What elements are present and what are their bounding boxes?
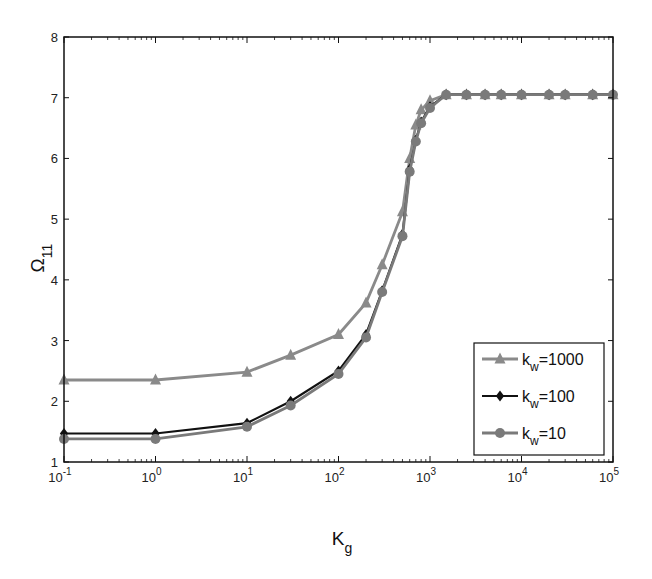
y-tick-label: 5	[51, 212, 58, 227]
circle-marker	[405, 167, 415, 177]
circle-marker	[334, 369, 344, 379]
x-tick-label: 105	[599, 466, 619, 485]
circle-marker	[544, 90, 554, 100]
circle-legend-icon	[495, 428, 505, 438]
circle-marker	[286, 401, 296, 411]
circle-marker	[397, 231, 407, 241]
y-tick-label: 4	[51, 273, 58, 288]
circle-marker	[441, 90, 451, 100]
triangle-marker	[377, 258, 388, 269]
circle-marker	[411, 136, 421, 146]
circle-marker	[377, 287, 387, 297]
x-tick-label: 101	[233, 466, 253, 485]
series-k-w-1000	[59, 88, 619, 384]
y-tick-label: 7	[51, 91, 58, 106]
x-tick-label: 100	[141, 466, 161, 485]
circle-marker	[242, 422, 252, 432]
y-tick-label: 8	[51, 30, 58, 45]
x-tick-label: 103	[416, 466, 436, 485]
x-axis-label: Kg	[332, 528, 352, 556]
triangle-marker	[361, 296, 372, 307]
y-tick-label: 2	[51, 394, 58, 409]
circle-marker	[517, 90, 527, 100]
circle-marker	[361, 333, 371, 343]
circle-marker	[480, 90, 490, 100]
chart: 1234567810-1100101102103104105 kw=1000kw…	[0, 0, 652, 579]
circle-marker	[425, 103, 435, 113]
y-tick-label: 3	[51, 334, 58, 349]
circle-marker	[560, 90, 570, 100]
x-tick-label: 104	[507, 466, 527, 485]
circle-marker	[588, 90, 598, 100]
circle-marker	[461, 90, 471, 100]
y-tick-label: 1	[51, 455, 58, 470]
svg-text:Ω11: Ω11	[27, 243, 55, 272]
circle-marker	[151, 434, 161, 444]
x-tick-label: 102	[324, 466, 344, 485]
y-axis-label: Ω11	[27, 243, 55, 272]
circle-marker	[416, 118, 426, 128]
circle-marker	[496, 90, 506, 100]
legend: kw=1000kw=100kw=10	[474, 343, 604, 455]
y-tick-label: 6	[51, 151, 58, 166]
